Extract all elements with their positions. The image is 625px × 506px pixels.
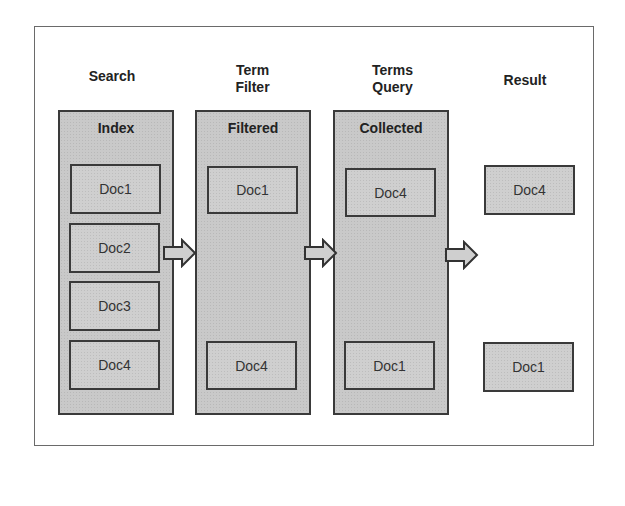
heading-terms-query-line1: Terms	[335, 62, 450, 79]
index-doc-2: Doc2	[69, 223, 160, 273]
filtered-doc-1: Doc1	[207, 166, 298, 214]
filtered-column-title: Filtered	[197, 120, 309, 136]
heading-term-filter-line2: Filter	[195, 79, 310, 96]
doc-label: Doc1	[512, 359, 545, 375]
heading-search: Search	[57, 68, 167, 85]
collected-doc-2: Doc1	[344, 341, 435, 390]
doc-label: Doc4	[374, 185, 407, 201]
doc-label: Doc2	[98, 240, 131, 256]
doc-label: Doc1	[236, 182, 269, 198]
index-doc-1: Doc1	[70, 164, 161, 214]
heading-term-filter: Term Filter	[195, 62, 310, 96]
result-doc-1: Doc4	[484, 165, 575, 215]
arrow-right-icon	[445, 240, 479, 270]
filtered-doc-2: Doc4	[206, 341, 297, 390]
heading-terms-query-line2: Query	[335, 79, 450, 96]
result-doc-2: Doc1	[483, 342, 574, 392]
heading-result: Result	[475, 72, 575, 89]
collected-column-title: Collected	[335, 120, 447, 136]
doc-label: Doc4	[235, 358, 268, 374]
doc-label: Doc3	[98, 298, 131, 314]
collected-doc-1: Doc4	[345, 168, 436, 217]
doc-label: Doc4	[513, 182, 546, 198]
heading-term-filter-line1: Term	[195, 62, 310, 79]
doc-label: Doc1	[373, 358, 406, 374]
doc-label: Doc4	[98, 357, 131, 373]
index-doc-3: Doc3	[69, 281, 160, 331]
arrow-right-icon	[304, 238, 338, 268]
arrow-right-icon	[163, 238, 197, 268]
index-column-title: Index	[60, 120, 172, 136]
index-doc-4: Doc4	[69, 340, 160, 390]
heading-terms-query: Terms Query	[335, 62, 450, 96]
doc-label: Doc1	[99, 181, 132, 197]
